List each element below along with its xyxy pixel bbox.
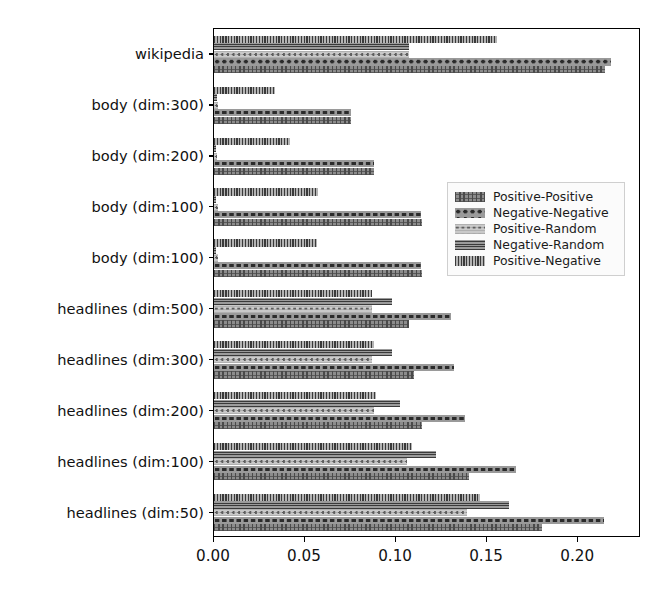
y-tick-mark <box>209 461 213 462</box>
legend-swatch-negative-negative <box>455 208 485 218</box>
bar <box>214 298 392 305</box>
bar <box>214 443 412 450</box>
legend-swatch-positive-positive <box>455 192 485 202</box>
bar <box>214 407 374 414</box>
bar <box>214 290 372 297</box>
bar <box>214 66 605 73</box>
bar <box>214 51 409 58</box>
bar <box>214 313 451 320</box>
bar <box>214 458 407 465</box>
y-tick-mark <box>209 308 213 309</box>
bar <box>214 160 374 167</box>
y-tick-label: headlines (dim:50) <box>67 503 204 520</box>
x-tick-label: 0.05 <box>287 547 321 565</box>
bar <box>214 400 400 407</box>
legend-item: Negative-Negative <box>455 205 617 220</box>
legend-label: Negative-Random <box>493 237 604 252</box>
figure: wikipediabody (dim:300)body (dim:200)bod… <box>0 0 666 591</box>
y-tick-mark <box>209 155 213 156</box>
bar <box>214 494 480 501</box>
y-tick-mark <box>209 410 213 411</box>
bar <box>214 501 509 508</box>
bar <box>214 138 290 145</box>
bar <box>214 188 318 195</box>
x-tick-label: 0.20 <box>560 547 594 565</box>
y-tick-label: body (dim:300) <box>92 96 204 113</box>
x-tick-mark <box>395 537 396 542</box>
legend-swatch-negative-random <box>455 240 485 250</box>
bar <box>214 168 374 175</box>
y-tick-mark <box>209 359 213 360</box>
x-axis-labels: 0.000.050.100.150.20 <box>0 537 666 577</box>
legend-label: Negative-Negative <box>493 205 609 220</box>
legend-item: Positive-Random <box>455 221 617 236</box>
bar <box>214 392 376 399</box>
bar <box>214 102 218 109</box>
y-tick-mark <box>209 206 213 207</box>
y-tick-label: wikipedia <box>135 45 204 62</box>
bar <box>214 466 516 473</box>
x-tick-label: 0.00 <box>196 547 230 565</box>
bars-container <box>214 29 639 536</box>
bar <box>214 320 409 327</box>
legend-item: Negative-Random <box>455 237 617 252</box>
x-tick-mark <box>213 537 214 542</box>
y-tick-mark <box>209 257 213 258</box>
legend-item: Positive-Negative <box>455 253 617 268</box>
x-tick-mark <box>304 537 305 542</box>
bar <box>214 364 454 371</box>
y-tick-label: headlines (dim:100) <box>57 452 204 469</box>
bar <box>214 219 422 226</box>
x-tick-mark <box>577 537 578 542</box>
bar <box>214 270 422 277</box>
y-axis-labels: wikipediabody (dim:300)body (dim:200)bod… <box>0 0 213 591</box>
y-tick-label: headlines (dim:500) <box>57 299 204 316</box>
bar <box>214 524 542 531</box>
y-tick-label: body (dim:100) <box>92 198 204 215</box>
legend-label: Positive-Positive <box>493 189 593 204</box>
bar <box>214 517 604 524</box>
x-tick-label: 0.15 <box>469 547 503 565</box>
bar <box>214 356 372 363</box>
x-tick-label: 0.10 <box>378 547 412 565</box>
bar <box>214 43 409 50</box>
bar <box>214 204 218 211</box>
y-tick-label: headlines (dim:300) <box>57 350 204 367</box>
bar <box>214 262 421 269</box>
bar <box>214 87 275 94</box>
bar <box>214 422 422 429</box>
bar <box>214 211 421 218</box>
bar <box>214 371 414 378</box>
bar <box>214 109 351 116</box>
bar <box>214 117 351 124</box>
legend-swatch-positive-negative <box>455 256 485 266</box>
bar <box>214 58 611 65</box>
x-tick-mark <box>486 537 487 542</box>
legend-label: Positive-Random <box>493 221 597 236</box>
legend-label: Positive-Negative <box>493 253 601 268</box>
legend-item: Positive-Positive <box>455 189 617 204</box>
bar <box>214 145 216 152</box>
bar <box>214 254 218 261</box>
bar <box>214 349 392 356</box>
y-tick-mark <box>209 104 213 105</box>
y-tick-label: headlines (dim:200) <box>57 401 204 418</box>
bar <box>214 196 216 203</box>
bar <box>214 509 467 516</box>
bar <box>214 36 497 43</box>
bar <box>214 473 469 480</box>
legend-swatch-positive-random <box>455 224 485 234</box>
y-tick-label: body (dim:200) <box>92 147 204 164</box>
legend: Positive-Positive Negative-Negative Posi… <box>447 182 625 276</box>
bar <box>214 153 217 160</box>
bar <box>214 239 317 246</box>
bar <box>214 451 436 458</box>
y-tick-label: body (dim:100) <box>92 249 204 266</box>
bar <box>214 94 217 101</box>
y-tick-mark <box>209 53 213 54</box>
bar <box>214 415 465 422</box>
bar <box>214 305 372 312</box>
plot-area <box>213 28 640 537</box>
bar <box>214 247 216 254</box>
y-tick-mark <box>209 512 213 513</box>
